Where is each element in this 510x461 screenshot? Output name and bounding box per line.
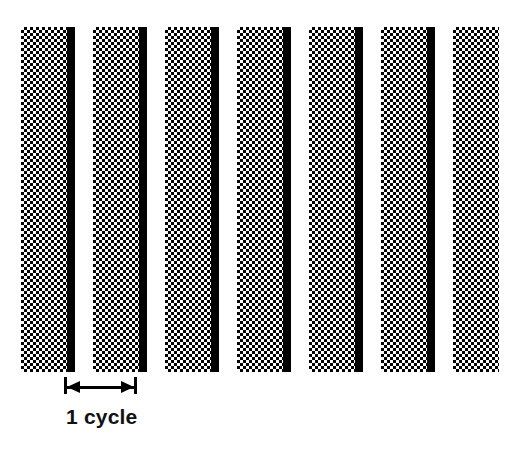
cycle-measure-annotation: 1 cycle [0, 0, 510, 461]
measure-tick-right [134, 377, 137, 394]
figure-root: 1 cycle [0, 0, 510, 461]
arrow-head-left-icon [67, 381, 80, 393]
arrow-head-right-icon [121, 381, 134, 393]
cycle-label: 1 cycle [66, 406, 137, 427]
